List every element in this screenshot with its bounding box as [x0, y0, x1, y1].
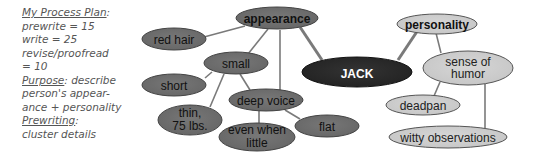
node-personality: personality: [397, 14, 477, 34]
line-small-short: [205, 72, 212, 78]
svg-text:deadpan: deadpan: [400, 99, 447, 113]
node-small: small: [204, 52, 268, 74]
line-deepvoice-flat: [285, 110, 300, 119]
node-flat: flat: [295, 115, 359, 137]
node-sense-of-humor: sense of humor: [423, 51, 513, 85]
line-appearance-redhair: [204, 26, 245, 37]
svg-text:humor: humor: [451, 67, 485, 81]
svg-text:JACK: JACK: [341, 67, 374, 81]
node-appearance: appearance: [236, 7, 318, 29]
svg-text:little: little: [246, 136, 268, 150]
cluster-diagram: appearance red hair small short thin, 75…: [0, 0, 534, 161]
node-deadpan: deadpan: [386, 95, 460, 115]
node-witty-observations: witty observations: [389, 126, 507, 148]
line-humor-deadpan: [434, 82, 440, 96]
svg-text:witty observations: witty observations: [399, 131, 495, 145]
svg-text:appearance: appearance: [244, 12, 311, 26]
node-thin-75-lbs: thin, 75 lbs.: [158, 105, 222, 135]
line-appearance-small: [248, 29, 268, 54]
node-red-hair: red hair: [142, 28, 206, 50]
svg-text:thin,: thin,: [179, 106, 202, 120]
svg-text:short: short: [161, 79, 188, 93]
svg-text:deep voice: deep voice: [237, 94, 295, 108]
line-appearance-jack: [300, 27, 322, 60]
line-personality-jack: [398, 30, 418, 60]
node-short: short: [142, 74, 206, 96]
svg-text:75 lbs.: 75 lbs.: [172, 119, 207, 133]
line-personality-humor: [436, 33, 441, 53]
svg-text:even when: even when: [228, 123, 286, 137]
node-jack: JACK: [302, 57, 412, 87]
svg-text:small: small: [222, 57, 250, 71]
svg-text:flat: flat: [319, 120, 336, 134]
line-small-thin: [210, 74, 224, 107]
line-small-deepvoice: [240, 74, 250, 90]
node-deep-voice: deep voice: [229, 89, 303, 111]
svg-text:red hair: red hair: [154, 33, 195, 47]
svg-text:personality: personality: [405, 18, 469, 32]
node-even-when-little: even when little: [219, 123, 295, 151]
